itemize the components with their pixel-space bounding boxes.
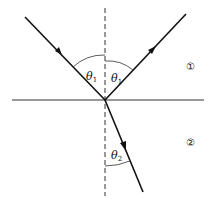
diagram-canvas: θ1 θ1 θ2 ① ②: [0, 0, 213, 203]
reflected-ray: [105, 14, 186, 100]
incident-angle-label: θ1: [86, 70, 97, 84]
incident-angle-arc: [73, 55, 105, 67]
refracted-arrow-icon: [120, 141, 126, 151]
medium-2-label: ②: [186, 137, 195, 148]
medium-1-label: ①: [186, 61, 195, 72]
refracted-angle-label: θ2: [111, 149, 122, 163]
reflected-angle-arc: [105, 61, 133, 70]
reflected-angle-label: θ1: [111, 72, 122, 86]
incident-ray: [25, 17, 105, 100]
